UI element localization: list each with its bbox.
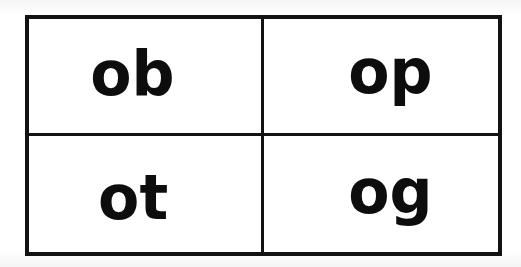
- syllable-text: op: [349, 41, 433, 103]
- grid-cell-top-left[interactable]: ob: [29, 19, 264, 136]
- grid-cell-bottom-left[interactable]: ot: [29, 136, 264, 253]
- syllable-text: og: [349, 161, 433, 223]
- grid-cell-top-right[interactable]: op: [264, 19, 499, 136]
- page-canvas: ob op ot og: [0, 0, 521, 267]
- syllable-text: ot: [98, 167, 168, 229]
- grid-cell-bottom-right[interactable]: og: [264, 136, 499, 253]
- syllable-text: ob: [91, 43, 175, 105]
- phonics-grid: ob op ot og: [25, 15, 502, 256]
